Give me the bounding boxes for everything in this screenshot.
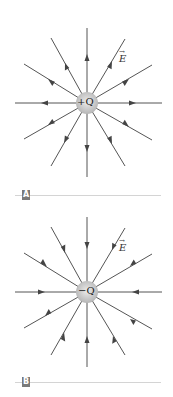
panel-tag-b: B — [22, 377, 30, 387]
field-label-e: E — [119, 242, 126, 253]
field-label-e: E — [119, 53, 126, 64]
charge-label-negative: −Q — [78, 285, 95, 296]
panel-a: +Q → E A — [0, 0, 173, 195]
separator-b — [15, 382, 161, 383]
charge-label-positive: +Q — [77, 96, 94, 107]
panel-b: −Q → E B — [0, 189, 173, 397]
